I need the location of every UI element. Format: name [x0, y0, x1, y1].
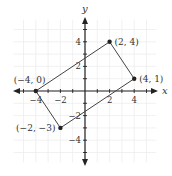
point-label: (4, 1)	[139, 74, 163, 84]
point-marker	[132, 77, 136, 81]
x-tick-label: −2	[54, 95, 67, 105]
y-tick-label: 4	[76, 37, 81, 47]
y-tick-label: −4	[68, 135, 81, 145]
point-label: (2, 4)	[115, 37, 139, 47]
point-label: (−2, −3)	[16, 123, 55, 133]
point-marker	[58, 126, 62, 130]
point-marker	[107, 40, 111, 44]
y-axis-arrow-down-icon	[82, 159, 88, 166]
x-tick-label: −4	[30, 95, 43, 105]
x-axis-arrow-left-icon	[13, 88, 20, 94]
x-tick-label: 4	[131, 95, 136, 105]
y-axis-label: y	[81, 3, 88, 14]
point-marker	[34, 89, 38, 93]
point-label: (−4, 0)	[14, 75, 46, 85]
coordinate-plane: −4−22442−2−4 (−4, 0)(2, 4)(4, 1)(−2, −3)…	[0, 0, 172, 176]
x-axis-arrow-right-icon	[151, 88, 158, 94]
points: (−4, 0)(2, 4)(4, 1)(−2, −3)	[14, 37, 164, 133]
x-axis-label: x	[162, 85, 168, 96]
y-axis-arrow-up-icon	[82, 17, 88, 24]
